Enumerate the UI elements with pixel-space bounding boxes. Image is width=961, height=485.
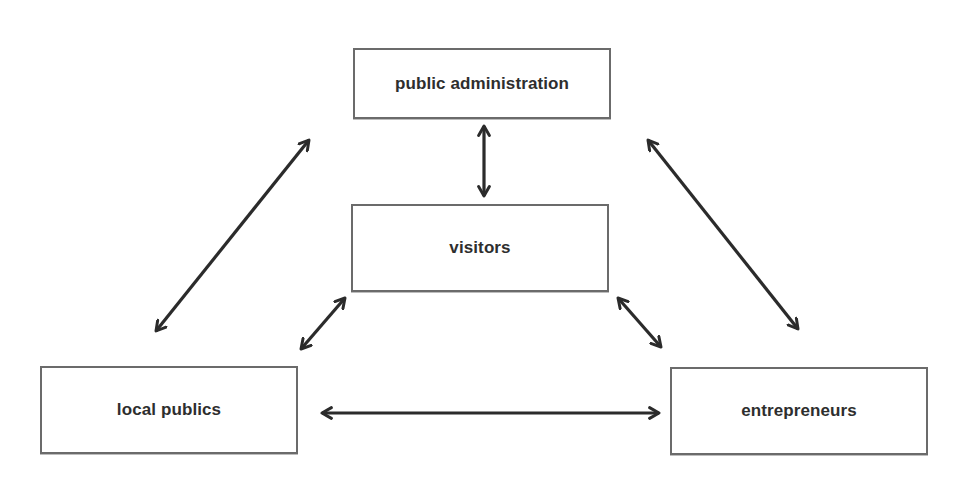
node-label: visitors xyxy=(449,238,510,258)
node-local-publics: local publics xyxy=(40,366,298,454)
node-entrepreneurs: entrepreneurs xyxy=(670,367,928,455)
node-label: local publics xyxy=(117,400,221,420)
arrow-visitors-local-publics xyxy=(301,298,345,349)
arrow-public-administration-local-publics xyxy=(156,140,309,331)
node-public-administration: public administration xyxy=(353,48,611,119)
node-label: public administration xyxy=(395,74,569,94)
arrow-public-administration-entrepreneurs xyxy=(648,140,798,329)
diagram-canvas: public administration visitors local pub… xyxy=(0,0,961,485)
arrow-visitors-entrepreneurs xyxy=(618,298,661,347)
node-visitors: visitors xyxy=(351,204,609,292)
node-label: entrepreneurs xyxy=(741,401,857,421)
